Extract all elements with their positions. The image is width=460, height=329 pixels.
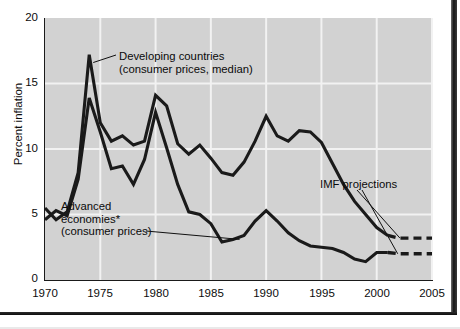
chart-figure: 20 15 10 5 0 1970 1975 1980 1985 1990 19…: [0, 0, 460, 329]
frame-right-edge: [451, 0, 457, 312]
annotation-leader-lines: [0, 0, 460, 329]
frame-bottom-edge: [0, 312, 457, 315]
